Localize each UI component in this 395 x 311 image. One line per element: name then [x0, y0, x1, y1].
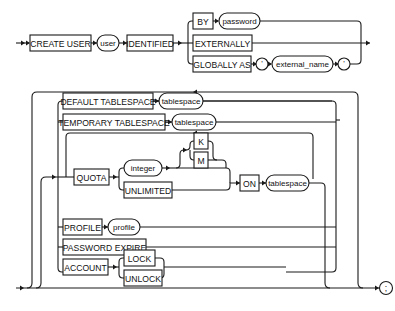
keyword-identified: IDENTIFIED: [126, 35, 174, 51]
keyword-temporary-tablespace: TEMPORARY TABLESPACE: [58, 114, 170, 130]
keyword-externally: EXTERNALLY: [193, 35, 252, 51]
svg-text:LOCK: LOCK: [128, 254, 152, 264]
svg-text:external_name: external_name: [276, 60, 329, 69]
svg-text:user: user: [100, 39, 116, 48]
keyword-unlock: UNLOCK: [124, 270, 162, 286]
keyword-account: ACCOUNT: [63, 259, 108, 275]
keyword-quota: QUOTA: [74, 169, 109, 185]
keyword-create-user: CREATE USER: [30, 35, 91, 51]
svg-text:DEFAULT TABLESPACE: DEFAULT TABLESPACE: [60, 97, 155, 107]
svg-text:ACCOUNT: ACCOUNT: [64, 263, 107, 273]
terminator-semicolon: ;: [380, 282, 393, 295]
keyword-by: BY: [193, 13, 213, 29]
svg-text:UNLIMITED: UNLIMITED: [125, 186, 171, 196]
svg-text:BY: BY: [197, 17, 209, 27]
svg-text:tablespace: tablespace: [162, 97, 201, 106]
svg-text:EXTERNALLY: EXTERNALLY: [195, 39, 251, 49]
param-password: password: [219, 13, 260, 29]
svg-text:CREATE USER: CREATE USER: [30, 39, 90, 49]
svg-text:K: K: [198, 137, 204, 147]
svg-text:profile: profile: [113, 223, 135, 232]
keyword-k: K: [194, 133, 208, 149]
svg-text:PROFILE: PROFILE: [64, 223, 101, 233]
svg-text:IDENTIFIED: IDENTIFIED: [126, 39, 174, 49]
keyword-default-tablespace: DEFAULT TABLESPACE: [60, 93, 155, 109]
svg-text:password: password: [222, 17, 256, 26]
param-integer: integer: [124, 160, 162, 176]
quote-open: ': [256, 58, 268, 70]
svg-text:integer: integer: [131, 164, 156, 173]
quote-close: ': [338, 58, 350, 70]
svg-text:UNLOCK: UNLOCK: [125, 274, 161, 284]
param-external-name: external_name: [272, 56, 333, 72]
syntax-diagram: CREATE USER user IDENTIFIED BY password …: [0, 0, 395, 311]
svg-text:M: M: [197, 156, 204, 166]
keyword-globally-as: GLOBALLY AS: [193, 56, 251, 72]
keyword-profile: PROFILE: [63, 219, 102, 235]
param-user: user: [97, 35, 119, 51]
keyword-m: M: [194, 152, 208, 168]
svg-text:ON: ON: [243, 179, 256, 189]
svg-text:tablespace: tablespace: [175, 118, 214, 127]
param-profile: profile: [108, 219, 140, 235]
svg-text:tablespace: tablespace: [268, 179, 307, 188]
svg-text:TEMPORARY TABLESPACE: TEMPORARY TABLESPACE: [58, 118, 170, 128]
keyword-on: ON: [240, 175, 259, 191]
keyword-unlimited: UNLIMITED: [124, 182, 172, 198]
svg-text:QUOTA: QUOTA: [77, 173, 107, 183]
param-default-tablespace: tablespace: [159, 93, 203, 109]
param-quota-tablespace: tablespace: [266, 175, 309, 191]
svg-text:GLOBALLY AS: GLOBALLY AS: [193, 60, 251, 70]
keyword-lock: LOCK: [124, 250, 155, 266]
svg-text:;: ;: [385, 283, 387, 293]
param-temporary-tablespace: tablespace: [172, 114, 216, 130]
